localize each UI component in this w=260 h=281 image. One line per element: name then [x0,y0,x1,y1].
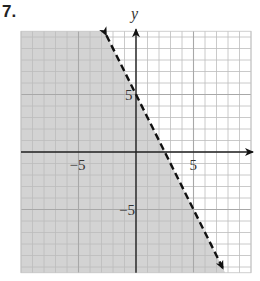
x-tick-label: −5 [70,157,86,173]
y-axis-label: y [129,5,139,23]
y-tick-label: −5 [119,202,135,218]
y-tick-label: 5 [125,87,133,103]
inequality-graph: y −555−5 [0,0,260,281]
x-tick-label: 5 [190,157,198,173]
